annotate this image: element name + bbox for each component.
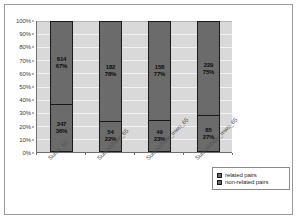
bar-segment-non-related[interactable]: 18278% <box>100 22 121 122</box>
stacked-bar[interactable]: 61467%34736% <box>50 21 73 152</box>
bar-segment-percent: 77% <box>154 71 166 78</box>
bar-segment-count: 614 <box>57 56 67 63</box>
bar-segment-count: 347 <box>57 121 67 128</box>
y-tick-label: 0% <box>23 150 31 156</box>
y-tick-label: 20% <box>19 124 31 130</box>
y-tick-mark <box>32 73 34 74</box>
y-tick-label: 70% <box>19 58 31 64</box>
stacked-bar[interactable]: 18278%5422% <box>99 21 122 152</box>
y-tick-label: 80% <box>19 44 31 50</box>
y-tick-label: 90% <box>19 31 31 37</box>
y-tick-mark <box>32 126 34 127</box>
legend-swatch-non-related-icon <box>217 180 222 185</box>
y-tick-mark <box>32 47 34 48</box>
stacked-bar[interactable]: 22975%8527% <box>197 21 220 152</box>
y-axis: 0%10%20%30%40%50%60%70%80%90%100% <box>5 21 34 153</box>
bar-segment-non-related[interactable]: 61467% <box>51 22 72 105</box>
x-tick-mark <box>183 153 184 155</box>
plot-area: 61467%34736%18278%5422%15877%4923%22975%… <box>36 21 232 153</box>
y-tick-mark <box>32 153 34 154</box>
y-tick-label: 100% <box>16 18 31 24</box>
x-tick-mark <box>36 153 37 155</box>
stacked-bar[interactable]: 15877%4923% <box>148 21 171 152</box>
y-tick-label: 30% <box>19 110 31 116</box>
legend-swatch-related-icon <box>217 173 222 178</box>
y-tick-mark <box>32 87 34 88</box>
y-tick-label: 10% <box>19 137 31 143</box>
legend: related pairs non-related pairs <box>212 167 290 190</box>
bar-segment-count: 85 <box>205 127 211 134</box>
bar-segment-count: 49 <box>156 129 162 136</box>
y-tick-label: 40% <box>19 97 31 103</box>
bar-segment-non-related[interactable]: 15877% <box>149 22 170 121</box>
bar-segment-percent: 36% <box>56 128 68 135</box>
bar-segment-count: 182 <box>106 64 116 71</box>
y-tick-mark <box>32 100 34 101</box>
bar-segment-count: 229 <box>204 62 214 69</box>
bar-segment-percent: 78% <box>105 71 117 78</box>
y-tick-mark <box>32 21 34 22</box>
bar-group: 61467%34736% <box>37 21 86 152</box>
y-tick-label: 60% <box>19 71 31 77</box>
y-tick-mark <box>32 139 34 140</box>
x-axis: Sumo_65SumoWhale_65SumoWhale_mwu_65SumoW… <box>36 153 232 209</box>
legend-label-non-related: non-related pairs <box>225 179 268 185</box>
bar-segment-percent: 67% <box>56 63 68 70</box>
legend-item: related pairs <box>217 172 285 178</box>
y-tick-mark <box>32 34 34 35</box>
x-tick-mark <box>134 153 135 155</box>
bar-segment-percent: 75% <box>203 69 215 76</box>
y-tick-label: 50% <box>19 84 31 90</box>
y-tick-mark <box>32 113 34 114</box>
y-tick-mark <box>32 60 34 61</box>
legend-item: non-related pairs <box>217 179 285 185</box>
bar-segment-count: 158 <box>155 64 165 71</box>
bar-segment-non-related[interactable]: 22975% <box>198 22 219 116</box>
x-tick-mark <box>85 153 86 155</box>
chart-frame: 0%10%20%30%40%50%60%70%80%90%100% 61467%… <box>4 4 293 215</box>
bar-segment-count: 54 <box>107 129 113 136</box>
x-tick-mark <box>232 153 233 155</box>
legend-label-related: related pairs <box>225 172 257 178</box>
